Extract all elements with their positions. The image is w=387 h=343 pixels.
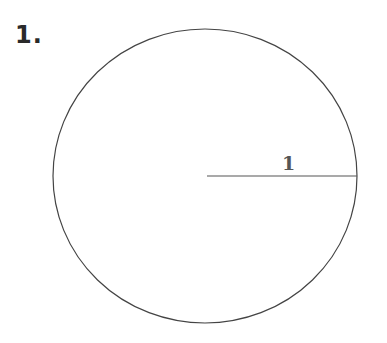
circle-diagram: 1 [0, 0, 387, 343]
radius-label: 1 [282, 152, 295, 174]
